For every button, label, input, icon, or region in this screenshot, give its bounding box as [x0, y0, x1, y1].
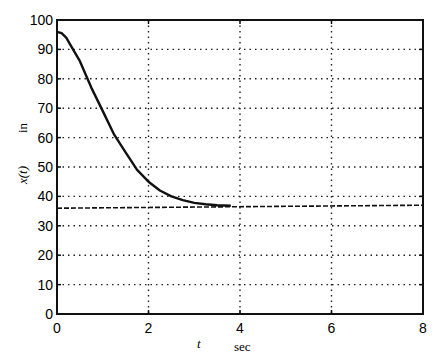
x-tick-label: 8	[419, 320, 427, 336]
y-tick-label: 0	[45, 306, 53, 322]
response-curve	[57, 32, 231, 206]
x-axis-label: t	[197, 336, 201, 351]
chart: 010203040506070809010002468tsecx(t)in	[0, 0, 437, 355]
y-tick-label: 30	[37, 218, 53, 234]
x-tick-label: 6	[328, 320, 336, 336]
y-axis-label: x(t)	[15, 166, 30, 185]
y-tick-label: 60	[37, 130, 53, 146]
y-tick-label: 10	[37, 277, 53, 293]
x-tick-label: 4	[236, 320, 244, 336]
y-tick-label: 100	[30, 12, 54, 28]
x-tick-label: 2	[145, 320, 153, 336]
y-tick-label: 80	[37, 71, 53, 87]
y-tick-label: 20	[37, 247, 53, 263]
y-tick-label: 50	[37, 159, 53, 175]
y-tick-label: 40	[37, 188, 53, 204]
x-tick-label: 0	[53, 320, 61, 336]
y-axis-unit: in	[15, 122, 30, 133]
y-tick-label: 90	[37, 41, 53, 57]
x-axis-unit: sec	[234, 339, 251, 354]
y-tick-label: 70	[37, 100, 53, 116]
